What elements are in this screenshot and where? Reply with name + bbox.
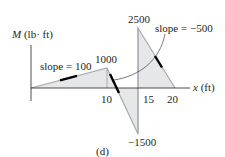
moment-area-fill bbox=[31, 28, 175, 134]
value-label-2500: 2500 bbox=[128, 13, 151, 25]
value-label-neg1500: −1500 bbox=[128, 136, 157, 148]
x-tick-10: 10 bbox=[101, 93, 113, 105]
moment-diagram: M (lb· ft) x (ft) 10 15 20 1000 2500 −15… bbox=[0, 0, 225, 157]
figure-caption: (d) bbox=[96, 145, 109, 157]
x-tick-20: 20 bbox=[167, 93, 179, 105]
value-label-1000: 1000 bbox=[95, 53, 118, 65]
slope-annotation-right: slope = −500 bbox=[155, 22, 213, 34]
slope-annotation-left: slope = 100 bbox=[40, 60, 92, 72]
y-axis-label: M (lb· ft) bbox=[11, 28, 53, 41]
x-tick-15: 15 bbox=[143, 93, 155, 105]
x-axis-label: x (ft) bbox=[192, 81, 215, 94]
